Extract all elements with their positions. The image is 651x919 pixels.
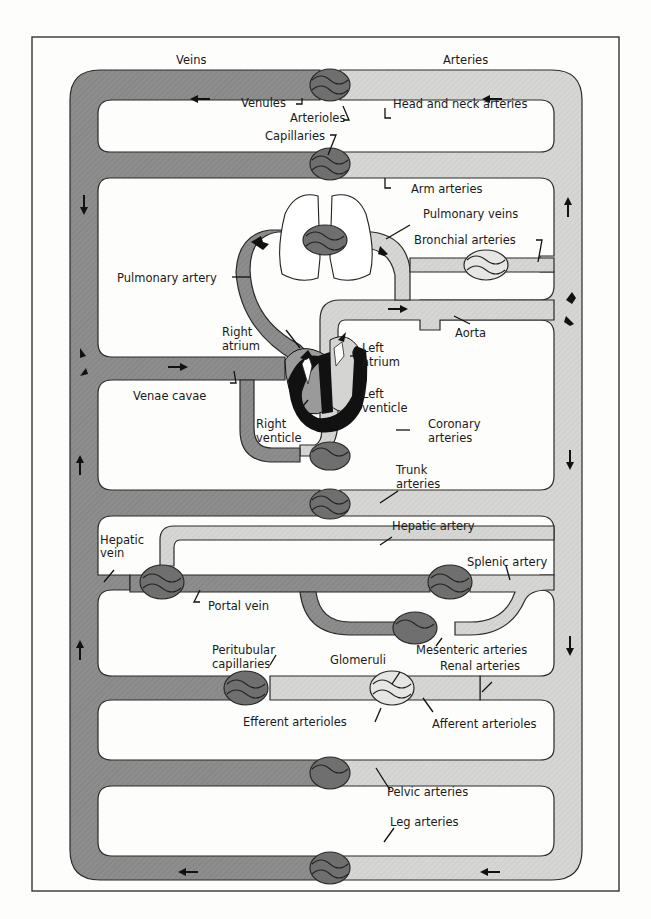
- label-veins: Veins: [176, 53, 207, 67]
- label-right-atrium: Right: [222, 325, 253, 339]
- label-arteries: Arteries: [443, 53, 488, 67]
- label-right-ventricle: Right: [256, 417, 287, 431]
- label-arm-arteries: Arm arteries: [411, 182, 483, 196]
- label-coronary-arteries-2: arteries: [428, 431, 472, 445]
- label-right-atrium-2: atrium: [222, 339, 260, 353]
- label-peritubular-capillaries: Peritubular: [212, 643, 275, 657]
- label-left-ventricle-2: venticle: [362, 401, 407, 415]
- label-head-neck-arteries: Head and neck arteries: [393, 97, 527, 111]
- label-hepatic-vein-2: vein: [100, 546, 124, 560]
- label-coronary-arteries: Coronary: [428, 417, 481, 431]
- label-trunk-arteries-2: arteries: [396, 477, 440, 491]
- label-renal-arteries: Renal arteries: [440, 659, 520, 673]
- label-capillaries: Capillaries: [265, 129, 325, 143]
- label-hepatic-artery: Hepatic artery: [392, 519, 475, 533]
- label-portal-vein: Portal vein: [208, 599, 269, 613]
- label-mesenteric-arteries: Mesenteric arteries: [416, 643, 527, 657]
- label-left-atrium-2: atrium: [362, 355, 400, 369]
- mesenteric-vein-vessel: [300, 592, 395, 635]
- label-trunk-arteries: Trunk: [395, 463, 428, 477]
- circulatory-system-diagram: Veins Arteries Venules Arterioles Head a…: [0, 0, 651, 919]
- label-right-ventricle-2: venticle: [256, 431, 301, 445]
- label-arterioles: Arterioles: [290, 111, 345, 125]
- label-left-atrium: Left: [362, 341, 384, 355]
- label-hepatic-vein: Hepatic: [100, 533, 144, 547]
- label-glomeruli: Glomeruli: [330, 653, 386, 667]
- label-pulmonary-veins: Pulmonary veins: [423, 207, 518, 221]
- label-leg-arteries: Leg arteries: [390, 815, 459, 829]
- label-pelvic-arteries: Pelvic arteries: [387, 785, 468, 799]
- label-venae-cavae: Venae cavae: [133, 389, 206, 403]
- label-left-ventricle: Left: [362, 387, 384, 401]
- label-pulmonary-artery: Pulmonary artery: [117, 271, 217, 285]
- label-afferent-arterioles: Afferent arterioles: [432, 717, 536, 731]
- label-splenic-artery: Splenic artery: [467, 555, 547, 569]
- label-aorta: Aorta: [455, 326, 486, 340]
- label-peritubular-capillaries-2: capillaries: [212, 657, 270, 671]
- venous-system: [70, 70, 320, 880]
- label-efferent-arterioles: Efferent arterioles: [243, 715, 347, 729]
- label-bronchial-arteries: Bronchial arteries: [414, 233, 516, 247]
- label-venules: Venules: [241, 96, 286, 110]
